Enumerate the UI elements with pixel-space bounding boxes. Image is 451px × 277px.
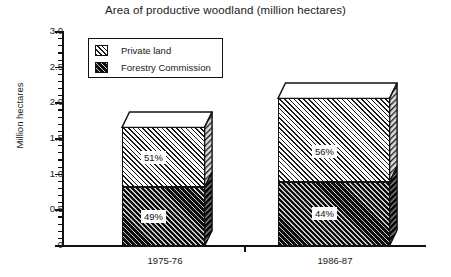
chart-title: Area of productive woodland (million hec… xyxy=(0,4,451,16)
bar-label-forestry-1975-76: 49% xyxy=(141,210,166,223)
y-minor-tick xyxy=(58,74,63,75)
y-minor-tick xyxy=(58,109,63,110)
y-minor-tick xyxy=(58,88,63,89)
y-minor-tick xyxy=(58,117,63,118)
y-minor-tick xyxy=(58,131,63,132)
x-axis-tick xyxy=(244,246,246,252)
bar-label-private-1975-76: 51% xyxy=(141,151,166,164)
y-minor-tick xyxy=(58,45,63,46)
legend-label-private-land: Private land xyxy=(121,45,171,56)
y-tick-label-3-0: 3.0 xyxy=(11,25,63,36)
y-minor-tick xyxy=(58,95,63,96)
y-minor-tick xyxy=(58,238,63,239)
y-minor-tick xyxy=(58,188,63,189)
y-minor-tick xyxy=(58,38,63,39)
y-minor-tick xyxy=(58,60,63,61)
y-minor-tick xyxy=(58,124,63,125)
y-minor-tick xyxy=(58,145,63,146)
bar-side-forestry-1975-76 xyxy=(204,186,220,250)
y-minor-tick xyxy=(58,181,63,182)
chart-container: Area of productive woodland (million hec… xyxy=(0,0,451,277)
y-minor-tick xyxy=(58,52,63,53)
legend-swatch-forestry-commission-icon xyxy=(95,62,108,73)
bar-label-private-1986-87: 56% xyxy=(312,145,337,158)
y-minor-tick xyxy=(58,152,63,153)
y-tick-label-0: 0 xyxy=(11,239,63,250)
y-minor-tick xyxy=(58,231,63,232)
y-minor-tick xyxy=(58,81,63,82)
legend-item-forestry-commission: Forestry Commission xyxy=(95,59,211,75)
y-tick-label-0-5: 0.5 xyxy=(11,203,63,214)
y-minor-tick xyxy=(58,159,63,160)
legend-swatch-private-land-icon xyxy=(95,45,108,56)
y-minor-tick xyxy=(58,202,63,203)
bar-segment-private-1986-87 xyxy=(278,98,390,182)
legend-item-private-land: Private land xyxy=(95,42,171,58)
x-tick-label-1975-76: 1975-76 xyxy=(120,255,210,266)
bar-label-forestry-1986-87: 44% xyxy=(312,207,337,220)
y-minor-tick xyxy=(58,224,63,225)
x-tick-label-1986-87: 1986-87 xyxy=(290,255,380,266)
bar-side-forestry-1986-87 xyxy=(389,182,405,250)
legend-label-forestry-commission: Forestry Commission xyxy=(121,62,211,73)
y-axis-title: Million hectares xyxy=(14,46,25,186)
y-minor-tick xyxy=(58,195,63,196)
y-minor-tick xyxy=(58,216,63,217)
y-minor-tick xyxy=(58,167,63,168)
legend: Private land Forestry Commission xyxy=(88,38,223,78)
